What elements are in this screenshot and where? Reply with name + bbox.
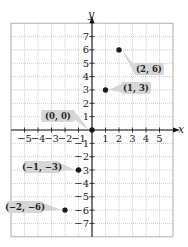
- data-point: [103, 87, 108, 92]
- point-label-callout: (−1, −3): [22, 161, 76, 173]
- point-label: (−1, −3): [22, 162, 62, 173]
- y-tick-label: 4: [83, 71, 89, 82]
- x-tick-label: 5: [156, 133, 162, 144]
- data-point: [62, 207, 67, 212]
- y-tick-label: 5: [83, 58, 89, 69]
- point-label: (0, 0): [45, 111, 71, 122]
- point-label: (−2, −6): [5, 202, 45, 213]
- y-tick-label: −2: [74, 151, 89, 162]
- y-tick-label: −7: [74, 218, 89, 229]
- y-axis-label: y: [87, 8, 95, 21]
- y-tick-label: −4: [74, 178, 89, 189]
- x-tick-label: 1: [102, 133, 108, 144]
- x-tick-label: 2: [116, 133, 122, 144]
- callout-pointer: [109, 84, 122, 92]
- x-tick-label: 3: [129, 133, 135, 144]
- data-point: [116, 47, 121, 52]
- point-label: (2, 6): [136, 64, 162, 75]
- x-tick-label: 4: [143, 133, 149, 144]
- y-tick-label: −1: [74, 138, 89, 149]
- y-tick-label: −5: [74, 191, 89, 202]
- y-tick-label: −6: [74, 205, 89, 216]
- data-point: [76, 167, 81, 172]
- callout-pointer: [43, 203, 62, 211]
- x-axis-label: x: [178, 123, 185, 136]
- y-tick-label: 2: [83, 98, 89, 109]
- y-tick-label: 3: [83, 84, 89, 95]
- coordinate-plane: −5−4−3−2−1123457654321−1−2−3−4−5−6−7 (2,…: [0, 0, 188, 247]
- y-tick-label: 7: [83, 31, 89, 42]
- data-point: [89, 127, 94, 132]
- callout-pointer: [60, 163, 76, 171]
- point-label-callout: (2, 6): [122, 50, 164, 75]
- point-label-callout: (1, 3): [109, 82, 152, 94]
- y-tick-label: 6: [83, 44, 89, 55]
- point-label-callout: (−2, −6): [5, 201, 62, 213]
- y-tick-label: 1: [83, 111, 89, 122]
- point-label: (1, 3): [123, 83, 149, 94]
